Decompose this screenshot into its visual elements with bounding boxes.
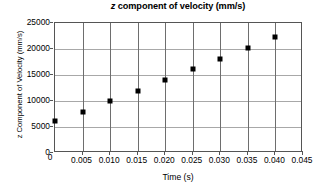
data-point [190, 67, 195, 72]
data-point [80, 109, 85, 114]
data-point [273, 35, 278, 40]
y-tick-label: 15000 [2, 69, 50, 79]
chart-figure: z component of velocity (mm/s) z Compone… [0, 0, 318, 190]
y-tick-label: 25000 [2, 17, 50, 27]
data-point [163, 77, 168, 82]
x-tick-mark [247, 151, 248, 155]
gridline-vertical [220, 23, 221, 151]
x-tick-mark [192, 151, 193, 155]
x-axis-title: Time (s) [54, 172, 302, 182]
gridline-vertical [110, 23, 111, 151]
gridline-vertical [275, 23, 276, 151]
data-point [135, 89, 140, 94]
x-tick-mark [274, 151, 275, 155]
x-tick-label: 0.045 [282, 155, 318, 165]
y-tick-mark [50, 126, 53, 127]
x-tick-mark [219, 151, 220, 155]
gridline-horizontal [55, 127, 301, 128]
gridline-vertical [165, 23, 166, 151]
y-tick-mark [50, 74, 53, 75]
gridline-vertical [193, 23, 194, 151]
y-axis-tick-labels: 0500010000150002000025000 [0, 22, 50, 152]
x-tick-mark [164, 151, 165, 155]
y-tick-label: 10000 [2, 95, 50, 105]
y-tick-mark [50, 100, 53, 101]
chart-title: z component of velocity (mm/s) [54, 1, 302, 11]
chart-title-rest: component of velocity (mm/s) [115, 1, 245, 11]
data-point [108, 99, 113, 104]
x-tick-mark [302, 151, 303, 155]
gridline-vertical [138, 23, 139, 151]
x-tick-mark [82, 151, 83, 155]
plot-area [54, 22, 302, 152]
data-point [218, 56, 223, 61]
x-tick-mark [109, 151, 110, 155]
data-point [53, 118, 58, 123]
gridline-horizontal [55, 101, 301, 102]
y-tick-label: 5000 [2, 121, 50, 131]
x-tick-mark [137, 151, 138, 155]
y-tick-label: 20000 [2, 43, 50, 53]
gridline-vertical [83, 23, 84, 151]
gridline-vertical [248, 23, 249, 151]
y-tick-mark [50, 22, 53, 23]
y-tick-mark [50, 48, 53, 49]
x-axis-tick-labels: 00.0050.0100.0150.0200.0250.0300.0350.04… [54, 155, 302, 167]
gridline-horizontal [55, 49, 301, 50]
gridline-horizontal [55, 75, 301, 76]
data-point [245, 46, 250, 51]
